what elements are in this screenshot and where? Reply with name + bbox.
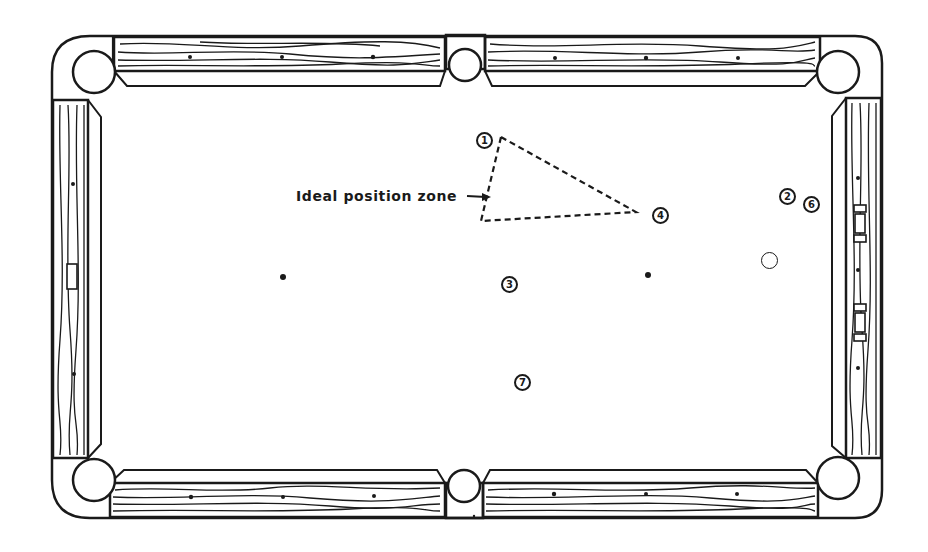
ball-4: 4 — [652, 207, 669, 224]
pocket-bottom-left — [73, 459, 115, 501]
pool-table-drawing — [0, 0, 928, 552]
ball-3: 3 — [501, 276, 518, 293]
pocket-bottom-middle — [446, 470, 483, 518]
pocket-bottom-right — [817, 457, 859, 499]
head-spot — [280, 274, 286, 280]
ball-6: 6 — [803, 196, 820, 213]
ball-1: 1 — [476, 132, 493, 149]
foot-spot — [645, 272, 651, 278]
bottom-left-rail — [110, 470, 445, 517]
ball-2: 2 — [779, 188, 796, 205]
left-rail — [53, 100, 101, 458]
ideal-position-zone — [481, 137, 636, 221]
right-arrow-icon — [467, 193, 491, 201]
cue-ball — [761, 252, 778, 269]
top-left-rail — [114, 37, 445, 86]
ball-7: 7 — [514, 374, 531, 391]
pocket-top-left — [73, 37, 115, 93]
zone-label: Ideal position zone — [296, 188, 457, 204]
pocket-top-middle — [446, 35, 485, 81]
pocket-top-right — [817, 51, 859, 93]
bottom-right-rail — [483, 470, 818, 517]
top-right-rail — [485, 37, 820, 86]
pool-table-diagram: Ideal position zone 1 2 6 4 3 7 — [0, 0, 928, 552]
right-rail — [832, 98, 881, 458]
table-outline — [52, 36, 882, 518]
